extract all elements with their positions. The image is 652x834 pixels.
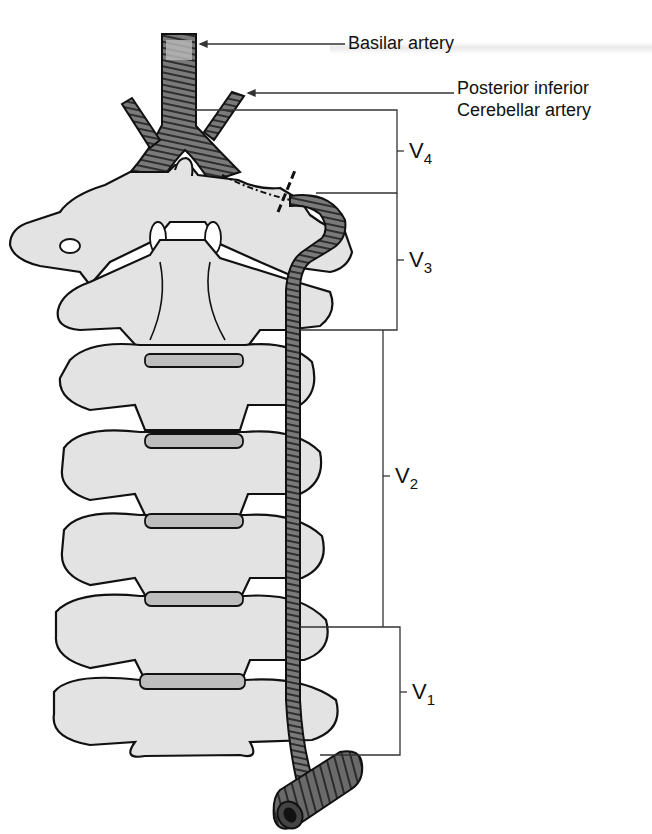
pica-label-line2: Cerebellar artery xyxy=(457,99,591,121)
vertebra-c4 xyxy=(62,430,321,515)
segment-letter: V xyxy=(409,138,424,163)
pica-label-line1: Posterior inferior xyxy=(457,77,589,99)
subclavian-artery xyxy=(273,751,363,833)
segment-letter: V xyxy=(395,463,410,488)
basilar-artery-label: Basilar artery xyxy=(348,32,454,54)
segment-v1-label: V1 xyxy=(412,679,435,708)
cervical-spine-illustration xyxy=(0,0,652,834)
segment-v4-label: V4 xyxy=(409,138,432,167)
segment-subscript: 2 xyxy=(410,475,418,492)
segment-subscript: 1 xyxy=(427,691,435,708)
segment-letter: V xyxy=(409,247,424,272)
vertebra-c3 xyxy=(60,344,314,430)
segment-letter: V xyxy=(412,679,427,704)
vertebra-c5 xyxy=(62,513,324,595)
segment-v2-label: V2 xyxy=(395,463,418,492)
segment-subscript: 3 xyxy=(424,259,432,276)
segment-v3-label: V3 xyxy=(409,247,432,276)
segment-subscript: 4 xyxy=(424,150,432,167)
